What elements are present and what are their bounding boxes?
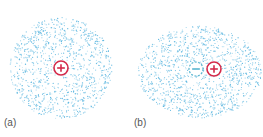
positive-charge-icon	[54, 61, 68, 75]
positive-charge-icon	[207, 62, 221, 76]
negative-charge-icon	[189, 62, 203, 76]
panel-label-a: (a)	[4, 117, 16, 128]
polarization-diagram	[0, 0, 263, 137]
panel-label-b: (b)	[134, 117, 146, 128]
